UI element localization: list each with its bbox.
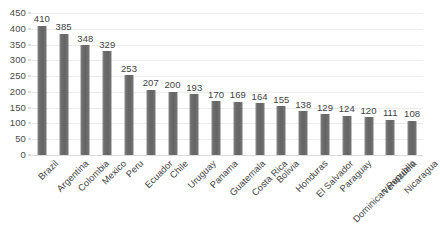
bar-slot: 410 — [31, 13, 53, 155]
bar-slot: 329 — [96, 13, 118, 155]
y-axis-tick-label: 300 — [10, 56, 26, 66]
bar-slot: 138 — [292, 13, 314, 155]
x-label-slot: Guatemala — [227, 155, 249, 243]
x-label-slot: Uruguay — [183, 155, 205, 243]
bar-value-label: 111 — [383, 108, 398, 118]
y-axis-tick-label: 200 — [10, 87, 26, 97]
bar[interactable] — [364, 117, 373, 155]
x-label-slot: Dominican Republic — [358, 155, 380, 243]
bar[interactable] — [103, 51, 112, 155]
bar-slot: 253 — [118, 13, 140, 155]
bar-value-label: 410 — [34, 14, 50, 24]
bar-value-label: 348 — [77, 34, 93, 44]
y-axis-tick-label: 400 — [10, 24, 26, 34]
bar-slot: 385 — [53, 13, 75, 155]
y-axis-tick-label: 250 — [10, 71, 26, 81]
bar-value-label: 108 — [404, 109, 420, 119]
y-axis-tick-label: 350 — [10, 40, 26, 50]
bar-slot: 193 — [183, 13, 205, 155]
bar-slot: 169 — [227, 13, 249, 155]
bar[interactable] — [168, 92, 177, 155]
bar-slot: 108 — [401, 13, 423, 155]
bar[interactable] — [233, 102, 242, 155]
bar[interactable] — [386, 120, 395, 155]
bar[interactable] — [124, 75, 133, 155]
x-axis-tick-label: Nicaragua — [403, 159, 440, 196]
bar-value-label: 155 — [273, 95, 289, 105]
x-label-slot: Costa Rica — [249, 155, 271, 243]
bar-value-label: 124 — [339, 104, 355, 114]
bar-value-label: 329 — [99, 40, 115, 50]
bar[interactable] — [255, 103, 264, 155]
bar-slot: 348 — [75, 13, 97, 155]
bar[interactable] — [190, 94, 199, 155]
bars-layer: 4103853483292532072001931701691641551381… — [31, 13, 423, 155]
x-label-slot: Venezuela — [379, 155, 401, 243]
bar-slot: 111 — [379, 13, 401, 155]
bar-slot: 129 — [314, 13, 336, 155]
x-label-slot: Peru — [118, 155, 140, 243]
x-label-slot: Colombia — [75, 155, 97, 243]
bar[interactable] — [277, 106, 286, 155]
x-axis-labels: BrazilArgentinaColombiaMexicoPeruEcuador… — [31, 155, 423, 243]
bar[interactable] — [320, 114, 329, 155]
bar-slot: 164 — [249, 13, 271, 155]
x-label-slot: Paraguay — [336, 155, 358, 243]
bar-slot: 124 — [336, 13, 358, 155]
bar[interactable] — [81, 45, 90, 155]
plot-area: 4103853483292532072001931701691641551381… — [31, 13, 423, 155]
bar-value-label: 200 — [164, 80, 180, 90]
bar-slot: 200 — [162, 13, 184, 155]
bar-value-label: 169 — [230, 90, 246, 100]
bar-slot: 170 — [205, 13, 227, 155]
y-axis-tick-label: 50 — [15, 134, 26, 144]
bar-value-label: 138 — [295, 100, 311, 110]
bar[interactable] — [299, 111, 308, 155]
bar-slot: 120 — [358, 13, 380, 155]
bar[interactable] — [408, 121, 417, 155]
bar[interactable] — [342, 116, 351, 155]
bar[interactable] — [146, 90, 155, 155]
bar-value-label: 164 — [252, 92, 268, 102]
bar-value-label: 193 — [186, 83, 202, 93]
bar-value-label: 207 — [143, 78, 159, 88]
bar-value-label: 385 — [56, 22, 72, 32]
x-label-slot: Ecuador — [140, 155, 162, 243]
x-label-slot: Brazil — [31, 155, 53, 243]
y-axis-tick-label: 450 — [10, 8, 26, 18]
x-label-slot: Nicaragua — [401, 155, 423, 243]
x-label-slot: Bolivia — [271, 155, 293, 243]
x-label-slot: Panama — [205, 155, 227, 243]
bar[interactable] — [212, 101, 221, 155]
x-label-slot: Mexico — [96, 155, 118, 243]
bar-slot: 155 — [271, 13, 293, 155]
y-axis-tick-label: 100 — [10, 119, 26, 129]
y-axis-tick-label: 150 — [10, 103, 26, 113]
bar[interactable] — [59, 34, 68, 155]
bar-value-label: 170 — [208, 90, 224, 100]
bar-value-label: 120 — [360, 106, 376, 116]
x-label-slot: Honduras — [292, 155, 314, 243]
bar-slot: 207 — [140, 13, 162, 155]
x-label-slot: Argentina — [53, 155, 75, 243]
bar-value-label: 253 — [121, 64, 137, 74]
x-label-slot: Chile — [162, 155, 184, 243]
y-axis: 450400350300250200150100500 — [0, 13, 31, 155]
bar-value-label: 129 — [317, 103, 333, 113]
x-label-slot: El Salvador — [314, 155, 336, 243]
bar[interactable] — [37, 26, 46, 155]
y-axis-tick-label: 0 — [21, 150, 26, 160]
